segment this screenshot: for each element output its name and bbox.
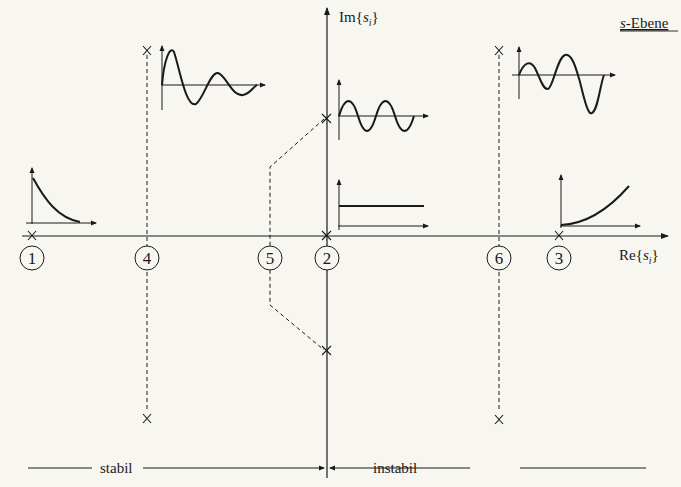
pole-label-2: 2 bbox=[315, 246, 339, 270]
response-plot-6-growing bbox=[512, 47, 615, 113]
pole-label-5: 5 bbox=[258, 246, 282, 270]
pole-label-4: 4 bbox=[135, 246, 159, 270]
pole-label-1: 1 bbox=[20, 246, 44, 270]
response-plot-4-damped bbox=[161, 46, 265, 110]
response-plot-3-growing-exp bbox=[560, 175, 640, 228]
response-plot-5-undamped bbox=[338, 80, 428, 140]
imag-axis-label: Im{si} bbox=[339, 9, 379, 28]
pole-cross-6-upper bbox=[495, 46, 503, 55]
pole-cross-4-upper bbox=[143, 46, 151, 55]
real-axis-label: Re{si} bbox=[619, 247, 659, 266]
pole-label-6: 6 bbox=[487, 246, 511, 270]
svg-text:6: 6 bbox=[495, 249, 504, 268]
svg-text:3: 3 bbox=[555, 249, 564, 268]
pole-cross-6-lower bbox=[495, 415, 503, 424]
plane-title: s-Ebene bbox=[620, 15, 669, 31]
stable-region-label: stabil bbox=[100, 460, 133, 476]
pole-label-3: 3 bbox=[547, 246, 571, 270]
pole-trajectories bbox=[147, 55, 499, 412]
svg-text:5: 5 bbox=[266, 249, 275, 268]
svg-text:4: 4 bbox=[143, 249, 152, 268]
response-plot-1-decaying bbox=[26, 168, 96, 224]
unstable-region-label: instabil bbox=[373, 460, 417, 476]
response-plot-2-constant bbox=[338, 180, 428, 230]
svg-text:2: 2 bbox=[323, 249, 332, 268]
s-plane-diagram: Im{si} Re{si} s-Ebene 1 4 5 2 6 bbox=[0, 0, 681, 487]
pole-markers bbox=[28, 46, 563, 424]
svg-text:1: 1 bbox=[28, 249, 37, 268]
pole-cross-4-lower bbox=[143, 414, 151, 423]
